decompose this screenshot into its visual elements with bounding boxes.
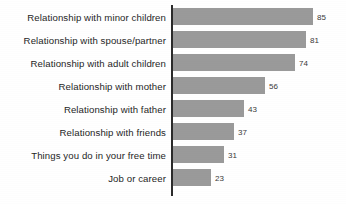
bar-row: Job or career 23 [0,169,346,186]
bar-track: 85 [173,8,346,25]
bar-value-label: 81 [306,35,319,44]
bar-fill [173,31,306,48]
bar-row: Relationship with father 43 [0,100,346,117]
bar-row: Relationship with mother 56 [0,77,346,94]
bar-fill [173,123,234,140]
bar-track: 37 [173,123,346,140]
bar-value-label: 56 [265,81,278,90]
bar-fill [173,54,295,71]
bar-fill [173,100,244,117]
bar-track: 81 [173,31,346,48]
bar-track: 74 [173,54,346,71]
bar-chart: Relationship with minor children 85 Rela… [0,0,346,204]
category-label: Relationship with mother [0,80,166,91]
bar-track: 56 [173,77,346,94]
bar-fill [173,77,265,94]
bar-value-label: 43 [244,104,257,113]
bar-row: Relationship with adult children 74 [0,54,346,71]
bar-row: Relationship with spouse/partner 81 [0,31,346,48]
bar-row: Relationship with friends 37 [0,123,346,140]
category-label: Relationship with adult children [0,57,166,68]
bar-track: 23 [173,169,346,186]
chart-plot-area: Relationship with minor children 85 Rela… [0,0,346,204]
category-label: Relationship with spouse/partner [0,34,166,45]
bar-value-label: 23 [211,173,224,182]
category-label: Relationship with father [0,103,166,114]
bar-row: Relationship with minor children 85 [0,8,346,25]
bar-value-label: 37 [234,127,247,136]
category-label: Job or career [0,172,166,183]
bar-track: 43 [173,100,346,117]
bar-fill [173,8,313,25]
bar-fill [173,169,211,186]
bar-value-label: 31 [224,150,237,159]
bar-fill [173,146,224,163]
category-label: Relationship with friends [0,126,166,137]
bar-row: Things you do in your free time 31 [0,146,346,163]
bar-value-label: 74 [295,58,308,67]
category-label: Things you do in your free time [0,149,166,160]
bar-value-label: 85 [313,12,326,21]
bar-track: 31 [173,146,346,163]
category-label: Relationship with minor children [0,11,166,22]
bar-rows: Relationship with minor children 85 Rela… [0,8,346,192]
